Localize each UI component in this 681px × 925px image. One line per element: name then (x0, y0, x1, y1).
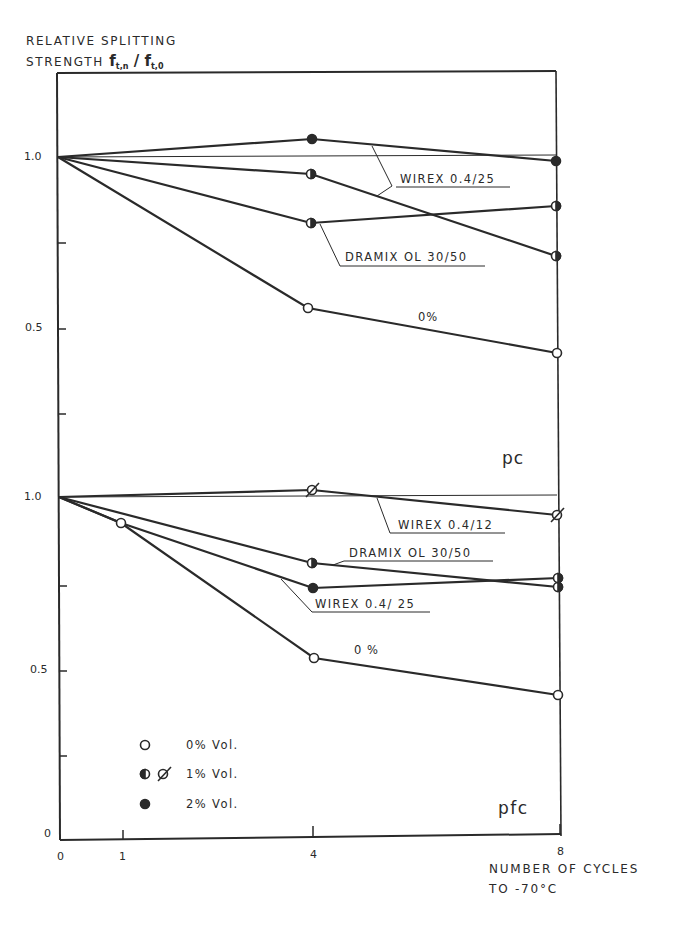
legend-open-circle-icon (141, 741, 150, 750)
series-top-0pct (58, 157, 557, 353)
frame-top (57, 71, 556, 73)
panel-label-pfc: pfc (498, 798, 529, 818)
annotation-wirex-04-12: WIREX 0.4/12 (398, 518, 493, 532)
y-tick-top-0.5: 0.5 (25, 321, 43, 334)
legend-label-1pct: 1% Vol. (186, 767, 239, 781)
annotation-dramix-top: DRAMIX OL 30/50 (345, 250, 467, 264)
marker-half (552, 252, 561, 261)
marker-open (310, 654, 319, 663)
series-top-wirex-2pct (58, 139, 556, 161)
marker-half (308, 559, 317, 568)
legend-slashed-circle-icon (158, 767, 171, 781)
marker-filled (309, 584, 318, 593)
x-axis-title-line2: TO -70°C (489, 882, 558, 896)
x-tick-1: 1 (119, 850, 126, 863)
y-tick-bottom-1.0: 1.0 (24, 490, 42, 503)
marker-filled (552, 157, 561, 166)
x-axis-title-line1: NUMBER OF CYCLES (489, 862, 639, 876)
marker-filled (308, 135, 317, 144)
marker-half (554, 583, 563, 592)
annotation-wirex-04-25-top: WIREX 0.4/25 (400, 172, 495, 186)
x-tick-8: 8 (557, 845, 564, 858)
y-tick-bottom-0: 0 (44, 827, 51, 840)
series-bottom-wirex025-2pct (59, 497, 558, 588)
panel-label-pc: pc (502, 448, 524, 468)
series-top-dramix-1pct (58, 157, 556, 223)
marker-open (117, 519, 126, 528)
legend-label-0pct: 0% Vol. (186, 738, 239, 752)
leader-wirex-top (372, 146, 392, 196)
x-tick-4: 4 (310, 848, 317, 861)
annotation-dramix-bottom: DRAMIX OL 30/50 (349, 546, 471, 560)
x-tick-0: 0 (57, 850, 64, 863)
annotation-wirex-04-25-bottom: WIREX 0.4/ 25 (315, 597, 415, 611)
marker-slashed (551, 508, 564, 522)
chart-canvas (0, 0, 681, 925)
marker-half (307, 219, 316, 228)
y-tick-bottom-0.5: 0.5 (30, 663, 48, 676)
marker-half (552, 202, 561, 211)
annotation-0pct-top: 0% (418, 310, 438, 324)
x-axis (60, 834, 561, 840)
marker-slashed (306, 483, 319, 497)
marker-open (553, 349, 562, 358)
frame-right (556, 71, 561, 836)
annotation-0pct-bottom: 0 % (354, 643, 379, 657)
y-axis (57, 73, 60, 840)
leader-dramix-bottom (333, 561, 493, 565)
marker-half (307, 170, 316, 179)
legend-filled-circle-icon (141, 800, 150, 809)
marker-open (554, 691, 563, 700)
legend-label-2pct: 2% Vol. (186, 797, 239, 811)
y-tick-top-1.0: 1.0 (24, 150, 42, 163)
marker-open (304, 304, 313, 313)
legend-half-circle-icon (141, 770, 150, 779)
series-bottom-dramix-1pct (59, 497, 558, 587)
marker-half (554, 574, 563, 583)
